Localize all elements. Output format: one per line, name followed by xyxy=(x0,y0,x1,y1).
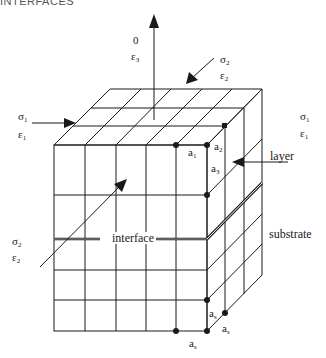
top-strain-label: ε3 xyxy=(131,50,139,66)
as-depth-label: as xyxy=(222,322,230,338)
arrowhead-left-icon xyxy=(232,157,244,167)
lattice-node xyxy=(173,142,179,148)
lower-left-eps-label: ε2 xyxy=(12,251,20,267)
lattice-node xyxy=(204,192,210,198)
a3-label: a3 xyxy=(211,162,219,178)
upper-right-eps-label: ε2 xyxy=(220,69,228,85)
left-sigma-label: σ1 xyxy=(18,110,27,126)
lattice-node xyxy=(204,297,210,303)
lattice-node xyxy=(204,328,210,334)
lattice-node xyxy=(222,310,228,316)
lattice-node xyxy=(204,142,210,148)
right-eps-label: ε1 xyxy=(300,127,308,143)
interface-label: interface xyxy=(110,232,156,244)
a2-label: a2 xyxy=(214,140,222,156)
a1-label: a1 xyxy=(188,146,196,162)
layer-label: layer xyxy=(270,150,294,162)
lattice-node xyxy=(173,328,179,334)
lattice-cube-diagram xyxy=(0,0,326,358)
as-horizontal-label: as xyxy=(189,337,197,353)
top-face xyxy=(54,89,262,145)
as-vertical-label: as xyxy=(209,307,217,323)
lattice-node xyxy=(222,123,227,128)
upper-right-sigma-label: σ2 xyxy=(220,53,229,69)
right-sigma-label: σ1 xyxy=(300,110,309,126)
arrowhead-up-icon xyxy=(149,14,159,28)
substrate-label: substrate xyxy=(269,228,312,240)
left-eps-label: ε1 xyxy=(18,128,26,144)
top-stress-label: 0 xyxy=(133,34,139,46)
lower-left-sigma-label: σ2 xyxy=(12,235,21,251)
